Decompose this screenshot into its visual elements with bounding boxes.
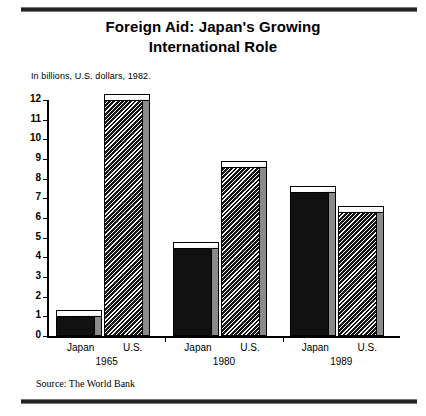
bar-side-face [95,316,102,336]
x-label-year: 1989 [283,355,400,369]
bar-1965-US [104,94,150,336]
chart-title-line-2: International Role [0,37,426,57]
chart-figure: Foreign Aid: Japan's Growing Internation… [0,0,426,416]
bar-top-cap [173,242,219,249]
chart-subtitle: In billions, U.S. dollars, 1982. [31,71,151,81]
y-tick-mark [43,257,48,258]
bar-front-face [290,192,329,336]
x-group-series-labels: JapanU.S. [165,341,282,355]
y-tick-mark [43,218,48,219]
y-tick-label: 5 [35,231,41,243]
chart-title: Foreign Aid: Japan's Growing Internation… [0,17,426,57]
y-tick-mark [43,100,48,101]
bar-side-face [143,100,150,336]
bar-1965-Japan [56,310,102,336]
y-tick-mark [43,277,48,278]
x-group-1989: JapanU.S.1989 [283,341,400,369]
source-note: Source: The World Bank [36,378,135,389]
bar-side-face [212,248,219,337]
y-tick-label: 0 [35,329,41,341]
plot-area: 0123456789101112 [48,100,400,336]
x-label-year: 1965 [48,355,165,369]
y-tick-label: 11 [30,113,41,125]
y-tick-mark [43,238,48,239]
bar-front-face [104,100,143,336]
x-group-1965: JapanU.S.1965 [48,341,165,369]
bar-side-face [377,212,384,336]
y-tick-mark [43,297,48,298]
bar-1980-Japan [173,242,219,337]
x-axis-line [47,336,400,338]
y-tick-label: 3 [35,270,41,282]
y-tick-label: 7 [35,191,41,203]
bar-top-cap [290,186,336,193]
x-label-year: 1980 [165,355,282,369]
y-tick-label: 4 [35,250,41,262]
chart-title-line-1: Foreign Aid: Japan's Growing [0,17,426,37]
top-divider-rule [21,7,417,12]
bar-top-cap [338,206,384,213]
y-tick-mark [43,120,48,121]
bar-top-cap [56,310,102,317]
y-tick-label: 9 [35,152,41,164]
bar-front-face [173,248,212,337]
y-tick-mark [43,159,48,160]
y-tick-mark [43,316,48,317]
x-label-Japan: Japan [172,341,224,355]
y-tick-mark [43,179,48,180]
bar-front-face [221,167,260,336]
bar-top-cap [221,161,267,168]
bar-front-face [56,316,95,336]
y-tick-label: 12 [30,93,41,105]
y-tick-label: 10 [30,132,41,144]
bar-front-face [338,212,377,336]
y-tick-label: 2 [35,290,41,302]
x-label-US: U.S. [107,341,159,355]
bar-1989-Japan [290,186,336,336]
x-group-series-labels: JapanU.S. [48,341,165,355]
y-tick-label: 8 [35,172,41,184]
x-label-Japan: Japan [55,341,107,355]
x-label-US: U.S. [224,341,276,355]
x-axis-labels: JapanU.S.1965JapanU.S.1980JapanU.S.1989 [48,341,400,375]
y-tick-label: 6 [35,211,41,223]
y-tick-label: 1 [35,309,41,321]
x-label-Japan: Japan [289,341,341,355]
y-tick-mark [43,336,48,337]
x-label-US: U.S. [341,341,393,355]
bottom-divider-rule [21,399,417,404]
y-tick-mark [43,198,48,199]
bar-side-face [260,167,267,336]
bar-1989-US [338,206,384,336]
x-group-1980: JapanU.S.1980 [165,341,282,369]
bar-top-cap [104,94,150,101]
x-group-series-labels: JapanU.S. [283,341,400,355]
bar-1980-US [221,161,267,336]
y-tick-mark [43,139,48,140]
bar-side-face [329,192,336,336]
